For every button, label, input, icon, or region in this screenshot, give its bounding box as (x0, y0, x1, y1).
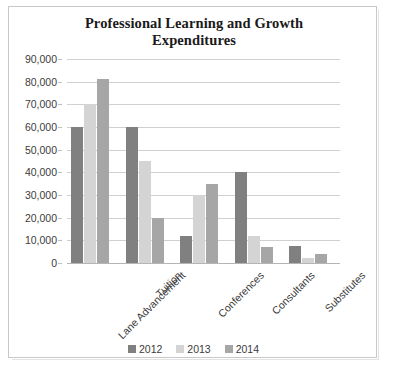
x-axis-tick-label: Substitutes (323, 269, 368, 314)
chart-title-line-2: Expenditures (152, 32, 236, 48)
bar-2012 (235, 172, 247, 263)
bar-group (126, 59, 175, 263)
legend-swatch-icon (225, 345, 233, 353)
y-axis-tick-label: 60,000 (25, 121, 57, 133)
y-axis-tick-mark (58, 82, 62, 83)
x-axis-baseline (67, 263, 340, 264)
bar-2012 (126, 127, 138, 263)
legend-swatch-icon (128, 345, 136, 353)
x-axis-tick-label: Conferences (216, 269, 267, 320)
y-axis-tick-label: 10,000 (25, 234, 57, 246)
legend-item-2013[interactable]: 2013 (176, 344, 210, 354)
legend-swatch-icon (176, 345, 184, 353)
legend-label: 2012 (139, 344, 162, 354)
bar-group (71, 59, 120, 263)
y-axis-tick-label: 20,000 (25, 212, 57, 224)
y-axis-tick-mark (58, 263, 62, 264)
y-axis-tick-label: 70,000 (25, 98, 57, 110)
bar-2013 (84, 104, 96, 263)
y-axis-tick-mark (58, 195, 62, 196)
bar-2012 (71, 127, 83, 263)
legend-label: 2013 (187, 344, 210, 354)
y-axis-tick-mark (58, 104, 62, 105)
bar-2012 (180, 236, 192, 263)
x-axis: Lane AdvancementTuitionConferencesConsul… (9, 265, 378, 335)
y-axis-tick-label: 50,000 (25, 144, 57, 156)
bar-2014 (152, 218, 164, 263)
bar-2014 (206, 184, 218, 263)
y-axis-tick-mark (58, 127, 62, 128)
chart-title-line-1: Professional Learning and Growth (85, 15, 303, 31)
bar-group (289, 59, 338, 263)
chart-title: Professional Learning and Growth Expendi… (39, 15, 349, 49)
y-axis-tick-label: 80,000 (25, 76, 57, 88)
y-axis-tick-mark (58, 172, 62, 173)
y-axis-tick-mark (58, 150, 62, 151)
bar-group (180, 59, 229, 263)
bar-2013 (193, 195, 205, 263)
bar-2014 (97, 79, 109, 263)
legend-item-2012[interactable]: 2012 (128, 344, 162, 354)
x-axis-tick-label: Consultants (269, 269, 317, 317)
y-axis-tick-label: 90,000 (25, 53, 57, 65)
bar-group (235, 59, 284, 263)
y-axis: 90,00080,00070,00060,00050,00040,00030,0… (9, 59, 62, 265)
legend-label: 2014 (236, 344, 259, 354)
bar-2013 (302, 258, 314, 263)
y-axis-tick-label: 30,000 (25, 189, 57, 201)
bar-2013 (248, 236, 260, 263)
plot-area (67, 59, 340, 264)
bar-2014 (261, 247, 273, 263)
legend-item-2014[interactable]: 2014 (225, 344, 259, 354)
bar-2012 (289, 246, 301, 263)
bar-2014 (315, 254, 327, 263)
chart-frame: Professional Learning and Growth Expendi… (8, 6, 377, 358)
chart-legend: 201220132014 (9, 344, 378, 354)
y-axis-tick-mark (58, 59, 62, 60)
y-axis-tick-label: 40,000 (25, 166, 57, 178)
y-axis-tick-mark (58, 218, 62, 219)
y-axis-tick-mark (58, 240, 62, 241)
bar-2013 (139, 161, 151, 263)
